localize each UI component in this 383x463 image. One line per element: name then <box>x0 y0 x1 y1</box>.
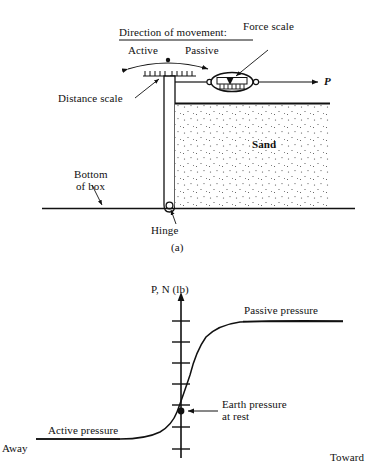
passive-direction-label: Passive <box>185 44 219 56</box>
hinge-label: Hinge <box>151 224 178 236</box>
active-pressure-annotation: Active pressure <box>48 424 118 436</box>
double-arrow-arc-icon <box>128 63 208 69</box>
y-axis-units: , N (lb) <box>156 283 189 295</box>
force-scale-leader <box>236 50 268 76</box>
gauge-right-eye-icon <box>253 79 258 84</box>
toward-axis-label: Toward <box>330 451 364 463</box>
bottom-of-box-label-line1: Bottom <box>74 168 108 180</box>
earth-pressure-at-rest-line1: Earth pressure <box>222 398 287 410</box>
distance-scale-leader <box>135 79 159 98</box>
direction-of-movement-header: Direction of movement: <box>119 26 227 38</box>
hinge-leader <box>171 210 176 224</box>
away-axis-label: Away <box>2 442 28 454</box>
force-scale-label: Force scale <box>243 20 294 32</box>
sand-region <box>175 104 330 208</box>
data-point-dot-icon <box>178 408 185 415</box>
bottom-of-box-label-line2: of box <box>76 180 105 192</box>
passive-pressure-annotation: Passive pressure <box>244 304 318 316</box>
sand-label: Sand <box>252 138 276 150</box>
distance-scale-label: Distance scale <box>58 92 123 104</box>
load-force-symbol: P <box>324 75 331 87</box>
y-axis-label: P, N (lb) <box>151 283 189 295</box>
distance-scale-ticks-icon <box>143 71 196 76</box>
panel-a-caption: (a) <box>171 241 184 253</box>
pressure-curve <box>36 321 343 439</box>
earth-pressure-at-rest-line2: at rest <box>222 410 249 422</box>
retaining-wall <box>164 76 175 212</box>
active-direction-label: Active <box>128 44 158 56</box>
arc-pivot-dot-icon <box>166 58 170 62</box>
